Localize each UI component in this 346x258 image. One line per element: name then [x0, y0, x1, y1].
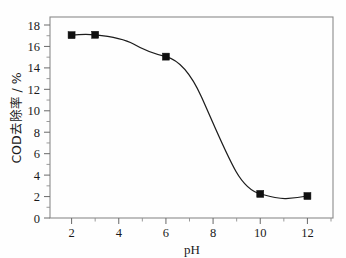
y-tick-label: 16: [28, 40, 41, 54]
y-tick-label: 6: [34, 147, 40, 161]
y-tick-label: 10: [28, 104, 41, 118]
y-tick-label: 0: [34, 212, 40, 226]
data-point-ph6: [162, 53, 169, 60]
data-point-ph2: [68, 32, 75, 39]
x-tick-label: 6: [163, 226, 169, 240]
y-tick-label: 8: [34, 126, 40, 140]
y-tick-label: 14: [28, 61, 41, 75]
x-axis-title: pH: [184, 242, 200, 257]
y-tick-label: 18: [28, 19, 41, 33]
x-tick-label: 2: [68, 226, 74, 240]
y-axis-title: COD去除率 / %: [9, 72, 24, 163]
data-point-ph12: [304, 193, 311, 200]
x-tick-label: 10: [254, 226, 267, 240]
x-tick-label: 12: [301, 226, 314, 240]
x-tick-label: 4: [116, 226, 123, 240]
y-tick-label: 4: [34, 169, 41, 183]
chart-canvas: 0 2 4 6 8 10 12 14 16 18: [0, 0, 346, 258]
data-point-ph3: [92, 31, 99, 38]
x-tick-label: 8: [210, 226, 216, 240]
chart-figure: 0 2 4 6 8 10 12 14 16 18: [0, 0, 346, 258]
y-tick-label: 2: [34, 190, 40, 204]
figure-background: [0, 0, 346, 258]
y-tick-label: 12: [28, 83, 41, 97]
data-point-ph10: [257, 190, 264, 197]
